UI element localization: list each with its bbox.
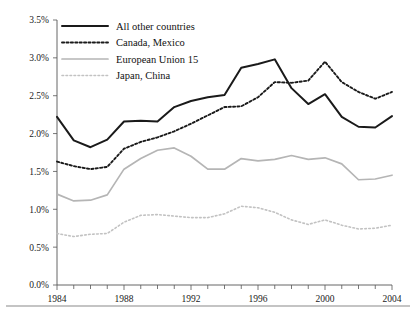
legend-label: European Union 15 [116,54,198,65]
x-tick-label: 1992 [182,294,201,304]
chart-canvas: 0.0%0.5%1.0%1.5%2.0%2.5%3.0%3.5% 1984198… [0,0,416,316]
chart-background [0,0,416,316]
legend-label: All other countries [116,21,195,32]
x-tick-label: 2004 [383,294,402,304]
legend-label: Japan, China [116,70,171,81]
y-tick-label: 1.0% [29,205,49,215]
y-tick-label: 0.5% [29,243,49,253]
x-tick-label: 1996 [249,294,268,304]
y-tick-label: 2.5% [29,91,49,101]
y-tick-label: 0.0% [29,280,49,290]
y-tick-label: 2.0% [29,129,49,139]
legend-label: Canada, Mexico [116,37,185,48]
y-tick-label: 1.5% [29,167,49,177]
x-tick-label: 1984 [48,294,67,304]
y-tick-label: 3.5% [29,15,49,25]
y-tick-label: 3.0% [29,53,49,63]
x-tick-label: 1988 [115,294,134,304]
line-chart: 0.0%0.5%1.0%1.5%2.0%2.5%3.0%3.5% 1984198… [0,0,416,316]
x-tick-label: 2000 [316,294,335,304]
